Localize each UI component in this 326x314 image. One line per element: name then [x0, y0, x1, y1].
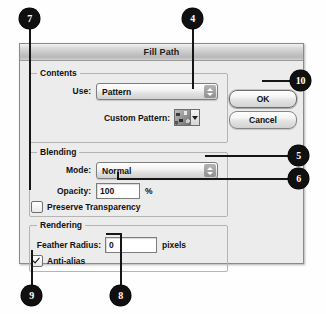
callout-10-number: 10 [296, 75, 305, 86]
contents-group-title: Contents [37, 68, 80, 78]
callout-5-number: 5 [296, 150, 301, 161]
callout-8: 8 [110, 285, 131, 306]
mode-dropdown[interactable]: Normal [96, 162, 218, 179]
rendering-group-title: Rendering [37, 220, 85, 230]
callout-7-number: 7 [27, 13, 32, 24]
chevron-updown-icon [204, 164, 216, 177]
preserve-transparency-row[interactable]: Preserve Transparency [31, 201, 141, 213]
anti-alias-row[interactable]: Anti-alias [31, 255, 85, 267]
cancel-button[interactable]: Cancel [229, 111, 297, 129]
pattern-swatch-icon [174, 109, 191, 126]
feather-radius-input[interactable]: 0 [105, 237, 157, 253]
feather-radius-value: 0 [106, 240, 114, 250]
screenshot-canvas: Fill Path Contents Use: Pattern Custom P… [0, 0, 326, 314]
pattern-menu-arrow-icon[interactable] [191, 109, 200, 126]
callout-5: 5 [288, 145, 309, 166]
leader-line-4 [192, 26, 194, 89]
leader-line-7 [29, 26, 31, 190]
opacity-label: Opacity: [48, 186, 91, 196]
feather-radius-unit: pixels [162, 240, 186, 250]
ok-button-label: OK [257, 94, 270, 104]
callout-9: 9 [21, 285, 42, 306]
feather-radius-label: Feather Radius: [31, 240, 101, 250]
leader-line-6 [117, 178, 290, 180]
use-dropdown-value: Pattern [97, 87, 131, 97]
custom-pattern-picker[interactable] [174, 109, 200, 125]
use-label: Use: [67, 86, 91, 96]
dialog-title: Fill Path [144, 47, 180, 57]
callout-6-number: 6 [296, 173, 301, 184]
preserve-transparency-label: Preserve Transparency [47, 202, 141, 212]
fill-path-dialog: Fill Path Contents Use: Pattern Custom P… [19, 43, 304, 264]
callout-4: 4 [182, 8, 203, 29]
leader-line-5 [205, 155, 290, 157]
mode-label: Mode: [58, 165, 91, 175]
callout-7: 7 [19, 8, 40, 29]
preserve-transparency-checkbox[interactable] [31, 201, 43, 213]
use-dropdown[interactable]: Pattern [96, 83, 218, 100]
callout-6: 6 [288, 168, 309, 189]
callout-4-number: 4 [190, 13, 195, 24]
opacity-unit: % [145, 186, 153, 196]
leader-line-10 [262, 80, 292, 82]
custom-pattern-label: Custom Pattern: [98, 113, 170, 123]
chevron-updown-icon [204, 85, 216, 98]
mode-dropdown-value: Normal [97, 166, 131, 176]
callout-8-number: 8 [118, 290, 123, 301]
blending-group-title: Blending [37, 147, 79, 157]
callout-9-number: 9 [29, 290, 34, 301]
ok-button[interactable]: OK [229, 90, 297, 108]
dialog-body: Contents Use: Pattern Custom Pattern: Bl… [20, 61, 303, 262]
opacity-value: 100 [97, 186, 114, 196]
cancel-button-label: Cancel [249, 115, 277, 125]
opacity-input[interactable]: 100 [96, 183, 140, 199]
anti-alias-label: Anti-alias [47, 256, 85, 266]
dialog-titlebar[interactable]: Fill Path [20, 44, 303, 61]
leader-line-8 [120, 233, 122, 292]
callout-10: 10 [290, 70, 311, 91]
